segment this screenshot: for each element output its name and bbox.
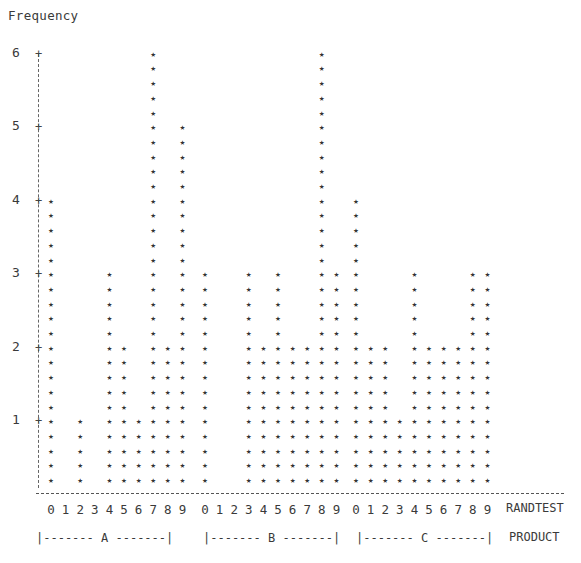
x-tick-label: 9 [179, 502, 187, 517]
bar-star: ★ [426, 446, 431, 455]
bar-star: ★ [441, 358, 446, 367]
bar-star: ★ [246, 417, 251, 426]
bar-star: ★ [246, 358, 251, 367]
bar-star: ★ [353, 476, 358, 485]
bar-star: ★ [261, 358, 266, 367]
bar-star: ★ [397, 461, 402, 470]
bar-star: ★ [180, 446, 185, 455]
y-tick-mark: + [35, 195, 42, 207]
bar-star: ★ [165, 446, 170, 455]
bar-star: ★ [304, 461, 309, 470]
bar-star: ★ [319, 270, 324, 279]
bar-star: ★ [304, 417, 309, 426]
bar-star: ★ [107, 343, 112, 352]
bar-star: ★ [107, 373, 112, 382]
bar-star: ★ [485, 431, 490, 440]
x-tick-label: 5 [274, 502, 282, 517]
bar-star: ★ [304, 343, 309, 352]
x-tick-label: 2 [381, 502, 389, 517]
bar-star: ★ [107, 461, 112, 470]
bar-star: ★ [319, 79, 324, 88]
x-tick-label: 8 [469, 502, 477, 517]
bar-star: ★ [180, 123, 185, 132]
bar-star: ★ [426, 358, 431, 367]
bar-star: ★ [353, 373, 358, 382]
x-tick-label: 7 [149, 502, 157, 517]
bar-star: ★ [150, 93, 155, 102]
bar-star: ★ [275, 387, 280, 396]
x-tick-label: 6 [135, 502, 143, 517]
bar-star: ★ [382, 461, 387, 470]
bar-star: ★ [304, 387, 309, 396]
bar-star: ★ [412, 284, 417, 293]
bar-star: ★ [180, 329, 185, 338]
bar-star: ★ [275, 270, 280, 279]
bar-star: ★ [121, 343, 126, 352]
bar-star: ★ [246, 299, 251, 308]
bar-star: ★ [180, 240, 185, 249]
bar-star: ★ [202, 373, 207, 382]
bar-star: ★ [319, 402, 324, 411]
bar-star: ★ [136, 417, 141, 426]
x-axis-baseline [36, 493, 564, 494]
bar-star: ★ [48, 417, 53, 426]
bar-star: ★ [441, 446, 446, 455]
bar-star: ★ [319, 152, 324, 161]
bar-star: ★ [353, 417, 358, 426]
bar-star: ★ [202, 358, 207, 367]
bar-star: ★ [441, 343, 446, 352]
bar-star: ★ [180, 373, 185, 382]
bar-star: ★ [412, 299, 417, 308]
x-axis-label: RANDTEST [506, 501, 564, 515]
bar-star: ★ [368, 387, 373, 396]
bar-star: ★ [136, 476, 141, 485]
bar-star: ★ [455, 417, 460, 426]
bar-star: ★ [353, 211, 358, 220]
bar-star: ★ [150, 64, 155, 73]
bar-star: ★ [107, 446, 112, 455]
bar-star: ★ [470, 284, 475, 293]
bar-star: ★ [382, 402, 387, 411]
x-tick-label: 3 [91, 502, 99, 517]
bar-star: ★ [441, 373, 446, 382]
x-tick-label: 2 [230, 502, 238, 517]
bar-star: ★ [202, 387, 207, 396]
y-tick-mark: + [35, 268, 42, 280]
bar-star: ★ [412, 461, 417, 470]
bar-star: ★ [412, 373, 417, 382]
bar-star: ★ [150, 461, 155, 470]
bar-star: ★ [180, 182, 185, 191]
bar-star: ★ [48, 446, 53, 455]
y-tick-mark: + [35, 415, 42, 427]
bar-star: ★ [334, 373, 339, 382]
bar-star: ★ [275, 431, 280, 440]
x-tick-label: 6 [289, 502, 297, 517]
bar-star: ★ [455, 446, 460, 455]
x-tick-label: 3 [396, 502, 404, 517]
bar-star: ★ [150, 182, 155, 191]
bar-star: ★ [202, 314, 207, 323]
bar-star: ★ [470, 387, 475, 396]
bar-star: ★ [275, 358, 280, 367]
bar-star: ★ [48, 270, 53, 279]
bar-star: ★ [412, 343, 417, 352]
bar-star: ★ [353, 461, 358, 470]
bar-star: ★ [261, 373, 266, 382]
bar-star: ★ [290, 431, 295, 440]
bar-star: ★ [382, 373, 387, 382]
bar-star: ★ [455, 343, 460, 352]
bar-star: ★ [353, 446, 358, 455]
bar-star: ★ [48, 373, 53, 382]
bar-star: ★ [275, 343, 280, 352]
bar-star: ★ [261, 476, 266, 485]
bar-star: ★ [368, 373, 373, 382]
bar-star: ★ [48, 314, 53, 323]
bar-star: ★ [275, 446, 280, 455]
bar-star: ★ [426, 461, 431, 470]
bar-star: ★ [48, 255, 53, 264]
bar-star: ★ [150, 446, 155, 455]
bar-star: ★ [150, 299, 155, 308]
bar-star: ★ [246, 461, 251, 470]
bar-star: ★ [150, 152, 155, 161]
bar-star: ★ [304, 431, 309, 440]
